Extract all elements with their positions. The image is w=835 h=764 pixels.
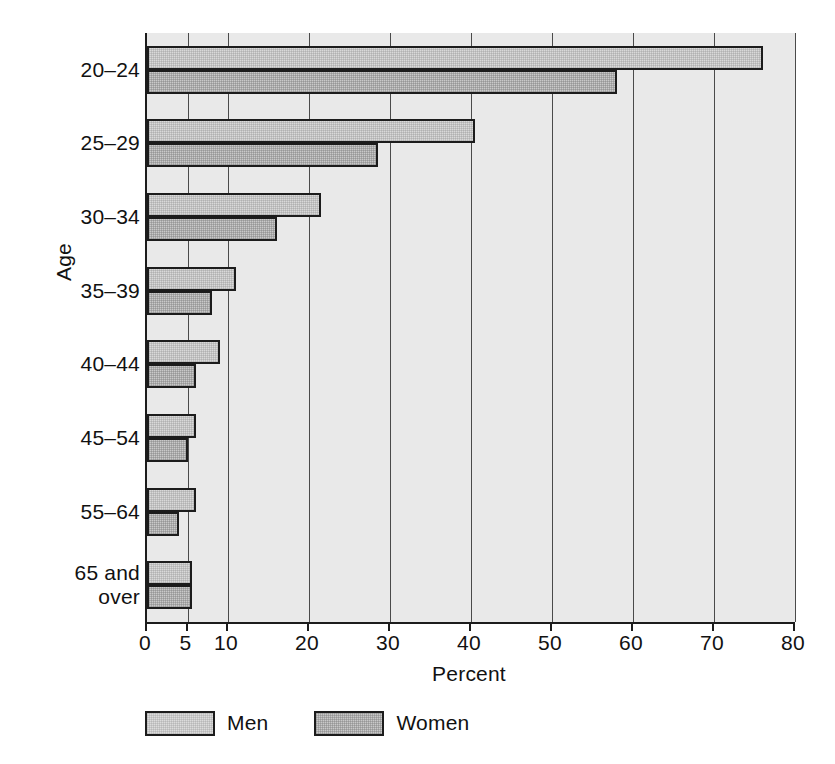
y-axis-tick-labels: 20–2425–2930–3435–3940–4445–5455–6465 an… (40, 33, 140, 622)
bar (147, 217, 277, 241)
legend-swatch-women (314, 711, 384, 736)
bar (147, 438, 188, 462)
y-axis-tick-label: 35–39 (40, 279, 140, 303)
plot-area (145, 33, 795, 624)
bar (147, 291, 212, 315)
bar (147, 364, 196, 388)
legend-swatch-men (145, 711, 215, 736)
bar (147, 70, 617, 94)
bar (147, 561, 192, 585)
bar (147, 193, 321, 217)
x-axis-tick-label: 5 (180, 630, 192, 656)
bar (147, 488, 196, 512)
y-axis-tick-label: 20–24 (40, 58, 140, 82)
bar (147, 585, 192, 609)
x-axis-tick-label: 60 (619, 630, 643, 656)
legend-entry-women: Women (314, 711, 469, 736)
bar-series-container (147, 33, 795, 622)
bar (147, 119, 475, 143)
bar (147, 46, 763, 70)
y-axis-tick-label: 40–44 (40, 352, 140, 376)
y-axis-tick-label: 55–64 (40, 500, 140, 524)
bar (147, 512, 179, 536)
legend-entry-men: Men (145, 711, 268, 736)
x-axis-tick-label: 0 (139, 630, 151, 656)
y-axis-tick-label: 30–34 (40, 205, 140, 229)
y-axis-tick-label: 65 and over (40, 561, 140, 609)
chart-legend: MenWomen (145, 706, 565, 740)
x-axis-title: Percent (145, 662, 793, 686)
y-axis-tick-label: 25–29 (40, 131, 140, 155)
x-axis-tick-labels: 051020304050607080 (145, 630, 795, 660)
y-axis-tick-label: 45–54 (40, 426, 140, 450)
legend-label: Men (227, 711, 268, 735)
legend-label: Women (396, 711, 469, 735)
gridline-80 (795, 33, 796, 622)
bar (147, 414, 196, 438)
x-axis-tick-label: 40 (457, 630, 481, 656)
bar (147, 143, 378, 167)
x-axis-tick-label: 20 (295, 630, 319, 656)
bar (147, 267, 236, 291)
x-axis-tick-label: 10 (214, 630, 238, 656)
x-axis-tick-label: 30 (376, 630, 400, 656)
bar (147, 340, 220, 364)
x-axis-tick-label: 70 (700, 630, 724, 656)
chart-figure: Age 20–2425–2930–3435–3940–4445–5455–646… (0, 0, 835, 764)
x-axis-tick-label: 80 (781, 630, 805, 656)
x-axis-tick-label: 50 (538, 630, 562, 656)
